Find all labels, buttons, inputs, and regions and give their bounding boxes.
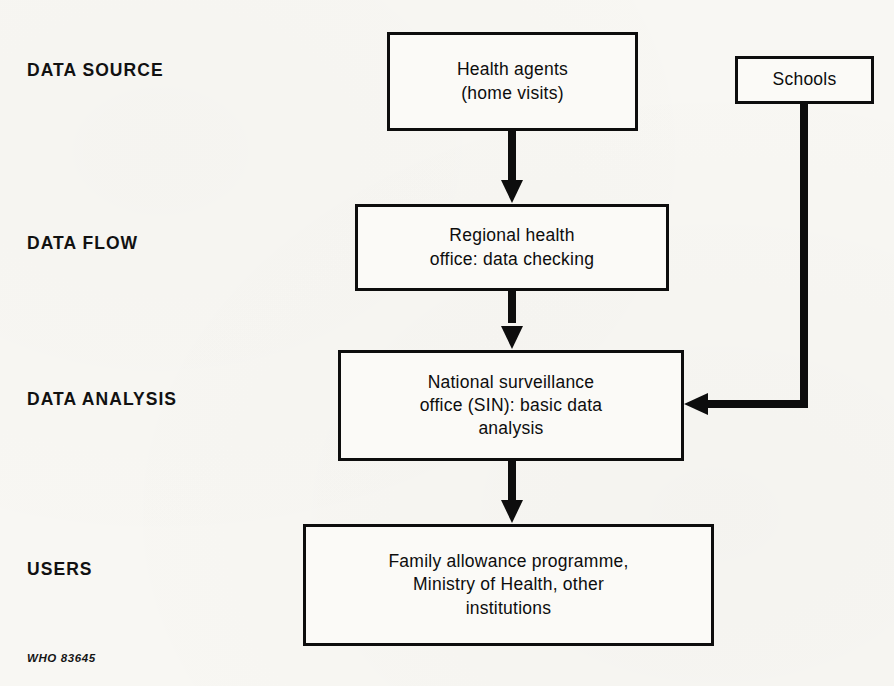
flowchart-diagram: DATA SOURCE DATA FLOW DATA ANALYSIS USER… [0, 0, 894, 686]
node-national-surveillance-office: National surveillance office (SIN): basi… [338, 350, 684, 461]
node-users-institutions: Family allowance programme, Ministry of … [303, 524, 714, 646]
stage-label-data-source: DATA SOURCE [27, 62, 164, 80]
node-national-surveillance-office-label: National surveillance office (SIN): basi… [412, 371, 611, 440]
node-regional-health-office: Regional health office: data checking [355, 204, 669, 291]
arrow-schools-to-national [684, 104, 808, 415]
node-health-agents: Health agents (home visits) [387, 32, 638, 131]
stage-label-data-analysis: DATA ANALYSIS [27, 391, 177, 409]
node-users-institutions-label: Family allowance programme, Ministry of … [380, 550, 636, 619]
arrow-national-to-users [501, 461, 523, 523]
node-regional-health-office-label: Regional health office: data checking [422, 224, 602, 270]
who-figure-credit: WHO 83645 [27, 652, 96, 664]
arrow-regional-to-national [501, 291, 523, 349]
node-health-agents-label: Health agents (home visits) [449, 58, 576, 104]
node-schools-label: Schools [764, 68, 844, 91]
node-schools: Schools [735, 56, 874, 104]
arrow-health-agents-to-regional [501, 131, 523, 203]
stage-label-data-flow: DATA FLOW [27, 235, 138, 253]
stage-label-users: USERS [27, 561, 93, 579]
